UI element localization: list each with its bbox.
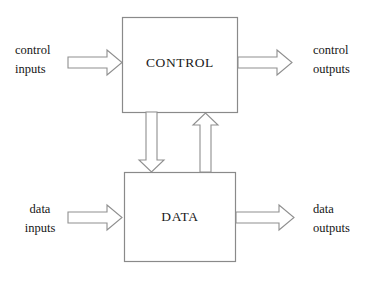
control-block-label: CONTROL (122, 55, 238, 71)
control-outputs-label-line1: control (313, 41, 372, 60)
data-to-control-arrow (193, 113, 218, 172)
data-outputs-label-line1: data (313, 200, 372, 219)
control-outputs-label: control outputs (313, 41, 372, 79)
data-inputs-label-line2: inputs (15, 219, 65, 238)
data-outputs-label-line2: outputs (313, 219, 372, 238)
data-block-label: DATA (124, 209, 236, 225)
control-inputs-label: control inputs (15, 41, 71, 79)
control-outputs-label-line2: outputs (313, 60, 372, 79)
control-inputs-label-line1: control (15, 41, 71, 60)
data-inputs-arrow (68, 205, 122, 230)
data-inputs-label: data inputs (15, 200, 65, 238)
control-inputs-arrow (68, 50, 122, 75)
data-outputs-label: data outputs (313, 200, 372, 238)
data-inputs-label-line1: data (15, 200, 65, 219)
diagram-canvas: CONTROL DATA control inputs control outp… (0, 0, 372, 285)
control-inputs-label-line2: inputs (15, 60, 71, 79)
control-outputs-arrow (238, 50, 292, 75)
data-outputs-arrow (236, 205, 294, 230)
control-to-data-arrow (139, 112, 164, 172)
